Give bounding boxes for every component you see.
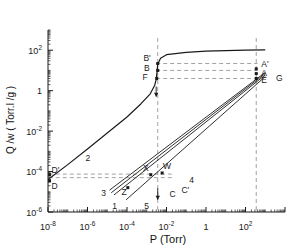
label-5: 5: [144, 201, 149, 211]
marker-B: [156, 69, 159, 72]
x-tick-marks: [48, 207, 285, 212]
series-4: [111, 74, 265, 193]
y-tick-labels: 102110-210-410-6: [26, 44, 42, 218]
tick-label: 10-6: [80, 220, 96, 232]
down-arrow-vertical-guide-head: [156, 196, 160, 200]
tick-label: 10-2: [26, 125, 42, 137]
label-W: W: [163, 161, 171, 171]
tick-label: 10-2: [159, 220, 175, 232]
label-C: C: [169, 189, 175, 199]
label-B': B': [143, 53, 151, 63]
series-3: [110, 72, 266, 190]
label-X: X: [143, 163, 149, 173]
label-1: 1: [112, 201, 117, 211]
y-axis-title: Q /w ( Torr.l /g ): [5, 86, 16, 154]
label-G: G: [276, 73, 283, 83]
tick-label: 102: [28, 44, 42, 56]
tick-label: 10-4: [119, 220, 135, 232]
marker-E: [255, 77, 258, 80]
tick-label: 10-6: [26, 206, 42, 218]
label-D': D': [52, 165, 60, 175]
tick-label: 102: [239, 220, 253, 232]
tick-label: 10-4: [26, 165, 42, 177]
tick-label: 1: [203, 222, 208, 232]
label-4: 4: [189, 175, 194, 185]
tick-label: 1: [37, 86, 42, 96]
guide-lines: [49, 38, 258, 212]
marker-X: [149, 173, 152, 176]
label-F: F: [143, 72, 148, 82]
label-3: 3: [101, 188, 106, 198]
axes: [48, 30, 285, 212]
label-D: D: [52, 181, 58, 191]
tick-label: 10-8: [40, 220, 56, 232]
marker-A: [255, 72, 258, 75]
marker-A': [255, 67, 258, 70]
marker-B': [156, 62, 159, 65]
figure-container: 10-810-610-410-21102 102110-210-410-6 B'…: [0, 0, 290, 250]
label-C': C': [181, 185, 189, 195]
x-axis-title: P (Torr): [150, 233, 186, 245]
marker-F: [155, 77, 158, 80]
marker-W: [161, 171, 164, 174]
data-point-markers: [48, 62, 258, 189]
adsorption-isotherm-chart: 10-810-610-410-21102 102110-210-410-6 B'…: [0, 0, 290, 250]
series-5: [126, 77, 265, 200]
label-Z: Z: [122, 187, 127, 197]
arrow-annotations: [154, 87, 160, 200]
label-2: 2: [86, 153, 91, 163]
x-tick-labels: 10-810-610-410-21102: [40, 220, 253, 232]
point-labels: B'BFA'AEGD'DXWZCC'31542: [52, 53, 283, 212]
label-E: E: [261, 75, 267, 85]
